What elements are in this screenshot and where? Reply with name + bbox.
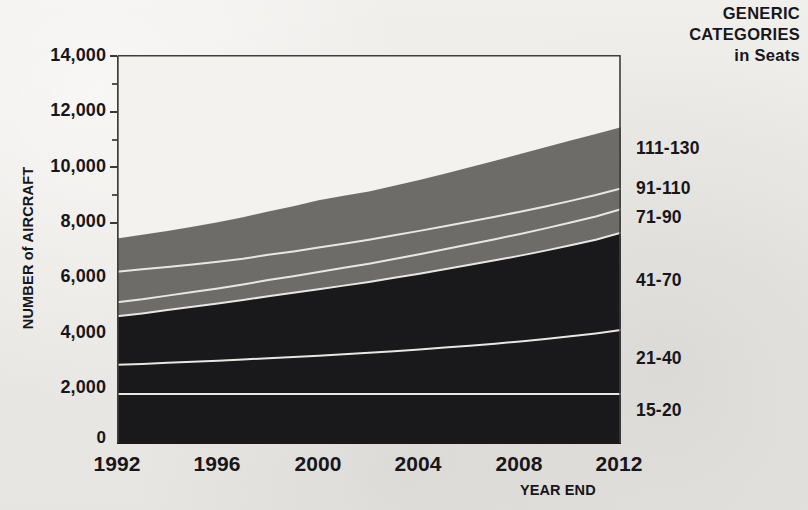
x-tick-label-2004: 2004: [363, 452, 473, 476]
legend-item-15-20: 15-20: [636, 400, 682, 421]
legend-heading-line1: GENERIC: [723, 4, 800, 23]
x-tick-label-2008: 2008: [464, 452, 574, 476]
x-tick-label-2012: 2012: [564, 452, 674, 476]
stacked-area-chart-figure: NUMBER of AIRCRAFT 14,000 12,000 10,000 …: [0, 0, 808, 510]
legend-heading-line3: in Seats: [734, 46, 800, 65]
legend-item-111-130: 111-130: [636, 138, 700, 159]
y-tick-label-14000: 14,000: [16, 45, 106, 66]
plot-area: [117, 55, 621, 444]
y-tick-label-10000: 10,000: [16, 156, 106, 177]
y-tick-label-8000: 8,000: [16, 211, 106, 232]
stacked-area-svg: [117, 55, 621, 444]
legend-item-71-90: 71-90: [636, 207, 682, 228]
legend-item-41-70: 41-70: [636, 270, 682, 291]
y-tick-label-0: 0: [16, 428, 106, 448]
y-tick-label-12000: 12,000: [16, 100, 106, 121]
x-axis-title: YEAR END: [520, 482, 596, 498]
legend-item-91-110: 91-110: [636, 178, 691, 199]
legend-heading-line2: CATEGORIES: [689, 25, 800, 44]
y-tick-label-6000: 6,000: [16, 266, 106, 287]
area-band-15-20: [117, 394, 621, 444]
legend-item-21-40: 21-40: [636, 348, 682, 369]
x-tick-label-1996: 1996: [162, 452, 272, 476]
y-tick-label-4000: 4,000: [16, 322, 106, 343]
y-tick-label-2000: 2,000: [16, 377, 106, 398]
x-tick-label-1992: 1992: [62, 452, 172, 476]
x-tick-label-2000: 2000: [263, 452, 373, 476]
